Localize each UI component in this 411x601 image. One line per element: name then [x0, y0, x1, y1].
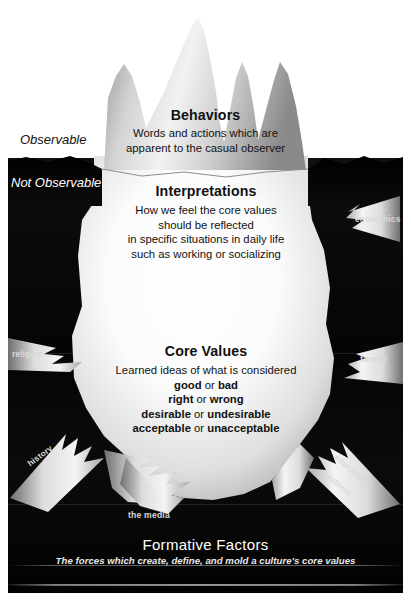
behaviors-heading: Behaviors: [68, 106, 343, 124]
pair-left: good: [174, 379, 202, 391]
interpretations-line-3: in specific situations in daily life: [128, 233, 284, 245]
interpretations-line-2: should be reflected: [158, 219, 253, 231]
label-observable: Observable: [20, 132, 86, 147]
level-interpretations: Interpretations How we feel the core val…: [56, 182, 356, 261]
factor-label-family: family: [360, 354, 387, 364]
label-not-observable: Not Observable: [11, 175, 101, 190]
iceberg-illustration: [8, 6, 403, 593]
pair-left: acceptable: [133, 422, 191, 434]
core-values-pair: desirable or undesirable: [141, 408, 270, 420]
caption-divider-bottom: [8, 584, 403, 586]
core-values-pair: good or bad: [174, 379, 238, 391]
factor-spike-history: [10, 434, 104, 512]
pair-conj: or: [197, 393, 207, 405]
pair-right: unacceptable: [207, 422, 279, 434]
pair-left: right: [168, 393, 193, 405]
level-core-values: Core Values Learned ideas of what is con…: [56, 342, 356, 435]
caption-title: Formative Factors: [8, 536, 403, 553]
pair-right: undesirable: [207, 408, 270, 420]
pair-conj: or: [205, 379, 215, 391]
caption-subtitle: The forces which create, define, and mol…: [8, 555, 403, 566]
core-values-heading: Core Values: [56, 342, 356, 360]
behaviors-line-1: Words and actions which are: [133, 127, 278, 139]
caption-block: Formative Factors The forces which creat…: [8, 536, 403, 566]
core-values-pair: acceptable or unacceptable: [133, 422, 280, 434]
artwork-frame: Behaviors Words and actions which are ap…: [8, 6, 403, 593]
core-values-lead: Learned ideas of what is considered: [116, 364, 297, 376]
iceberg-diagram: Behaviors Words and actions which are ap…: [0, 0, 411, 601]
interpretations-line-1: How we feel the core values: [135, 204, 276, 216]
factor-label-economics: economics: [355, 214, 401, 224]
pair-conj: or: [194, 422, 204, 434]
factor-spike-educational-systems: [306, 442, 400, 518]
pair-left: desirable: [141, 408, 191, 420]
core-values-pair: right or wrong: [168, 393, 243, 405]
level-behaviors: Behaviors Words and actions which are ap…: [68, 106, 343, 155]
behaviors-line-2: apparent to the casual observer: [126, 142, 285, 154]
interpretations-line-4: such as working or socializing: [131, 248, 280, 260]
factor-label-religion: religion: [12, 350, 43, 359]
pair-right: wrong: [210, 393, 244, 405]
factor-label-the-media: the media: [128, 510, 170, 520]
pair-conj: or: [194, 408, 204, 420]
pair-right: bad: [218, 379, 238, 391]
